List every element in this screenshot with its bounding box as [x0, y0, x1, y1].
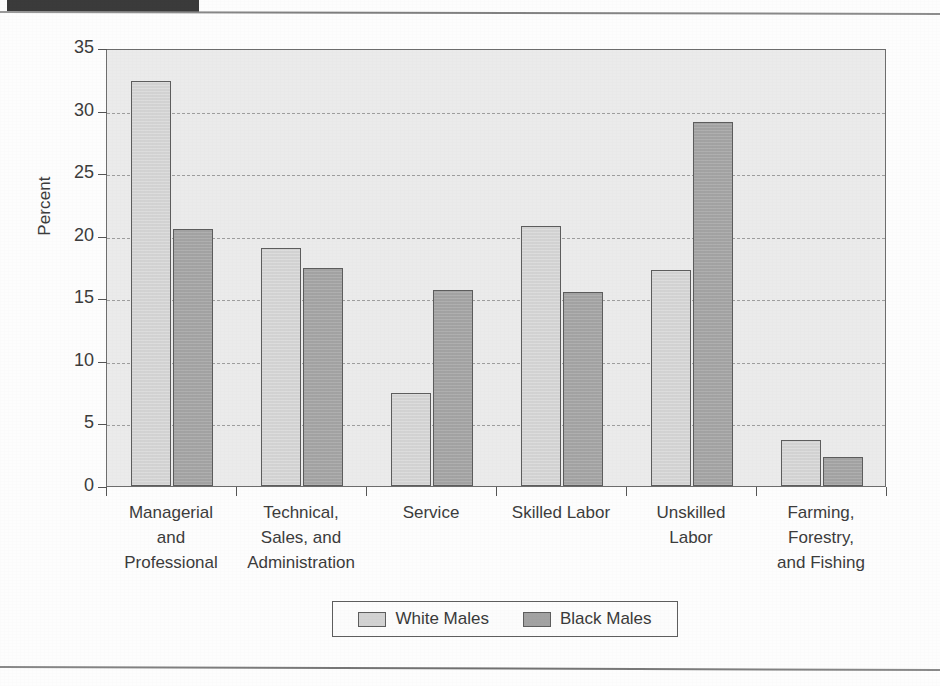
x-category-label-line: Professional	[99, 550, 243, 575]
legend-swatch-white-males-icon	[358, 612, 386, 627]
bar-white-males-2	[261, 248, 301, 486]
gridline-30	[107, 113, 885, 114]
bar-black-males-1	[173, 229, 213, 486]
y-tick-mark-25	[98, 174, 107, 175]
y-tick-mark-5	[98, 424, 107, 425]
x-category-label-3: Service	[359, 500, 503, 525]
x-category-label-line: Skilled Labor	[489, 500, 633, 525]
bar-white-males-1	[131, 81, 171, 486]
x-category-label-line: Forestry,	[749, 525, 893, 550]
bar-white-males-5	[651, 270, 691, 486]
x-category-label-1: ManagerialandProfessional	[99, 500, 243, 575]
y-tick-mark-35	[98, 49, 107, 50]
x-tick-mark-0	[106, 487, 107, 496]
plot-area	[106, 49, 886, 487]
legend-entry-1: White Males	[358, 609, 489, 629]
y-tick-label-35: 35	[50, 37, 94, 58]
y-tick-mark-30	[98, 112, 107, 113]
gridline-10	[107, 363, 885, 364]
bar-white-males-4	[521, 226, 561, 486]
y-tick-mark-20	[98, 237, 107, 238]
legend-label: White Males	[395, 609, 489, 629]
y-tick-label-25: 25	[50, 162, 94, 183]
legend-label: Black Males	[560, 609, 652, 629]
gridline-5	[107, 425, 885, 426]
x-tick-mark-2	[366, 487, 367, 496]
y-tick-label-10: 10	[50, 350, 94, 371]
x-category-label-line: Managerial	[99, 500, 243, 525]
bar-black-males-6	[823, 457, 863, 486]
y-tick-mark-10	[98, 362, 107, 363]
x-category-label-line: Farming,	[749, 500, 893, 525]
x-category-label-line: Unskilled	[619, 500, 763, 525]
legend-entry-2: Black Males	[523, 609, 652, 629]
legend-swatch-black-males-icon	[523, 612, 551, 627]
gridline-15	[107, 300, 885, 301]
x-category-label-2: Technical,Sales, andAdministration	[229, 500, 373, 575]
bar-black-males-3	[433, 290, 473, 486]
y-tick-label-20: 20	[50, 225, 94, 246]
x-tick-mark-3	[496, 487, 497, 496]
y-tick-mark-15	[98, 299, 107, 300]
y-tick-label-5: 5	[50, 412, 94, 433]
x-category-label-line: Labor	[619, 525, 763, 550]
x-category-label-5: UnskilledLabor	[619, 500, 763, 550]
y-tick-label-0: 0	[50, 475, 94, 496]
bar-white-males-3	[391, 393, 431, 486]
x-tick-mark-1	[236, 487, 237, 496]
gridline-25	[107, 175, 885, 176]
x-category-label-4: Skilled Labor	[489, 500, 633, 525]
x-category-label-line: Administration	[229, 550, 373, 575]
x-tick-mark-4	[626, 487, 627, 496]
x-category-label-line: Sales, and	[229, 525, 373, 550]
bar-white-males-6	[781, 440, 821, 486]
footer-rule	[0, 666, 940, 671]
x-category-label-6: Farming,Forestry,and Fishing	[749, 500, 893, 575]
gridline-20	[107, 238, 885, 239]
bar-black-males-4	[563, 292, 603, 486]
y-tick-label-15: 15	[50, 287, 94, 308]
y-tick-label-30: 30	[50, 100, 94, 121]
x-category-label-line: and Fishing	[749, 550, 893, 575]
chart-legend: White MalesBlack Males	[332, 601, 678, 637]
x-category-label-line: Technical,	[229, 500, 373, 525]
bar-black-males-5	[693, 122, 733, 486]
figure-page: Percent 05101520253035 ManagerialandProf…	[0, 0, 940, 686]
x-category-label-line: and	[99, 525, 243, 550]
x-tick-mark-5	[756, 487, 757, 496]
bar-black-males-2	[303, 268, 343, 486]
x-tick-mark-6	[886, 487, 887, 496]
header-rule	[0, 11, 940, 15]
x-category-label-line: Service	[359, 500, 503, 525]
